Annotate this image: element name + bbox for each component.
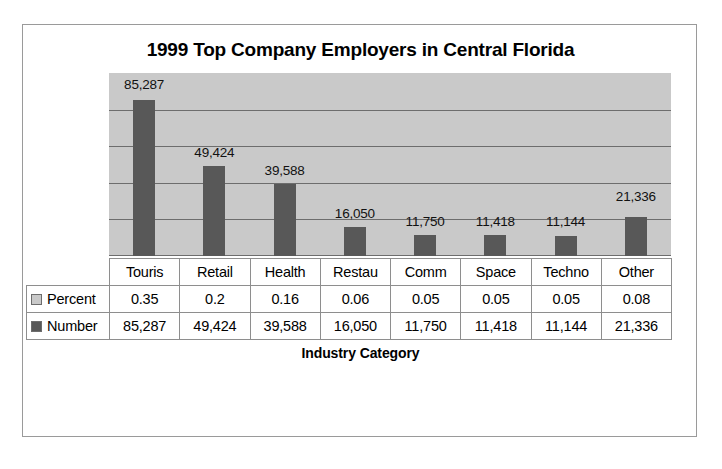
bar-number-3[interactable] [344,227,366,256]
table-header-cell-5: Space [461,259,531,286]
bar-value-label-7: 21,336 [616,189,656,204]
bar-number-2[interactable] [274,184,296,256]
bar-value-label-3: 16,050 [335,206,375,221]
data-table: Touris Retail Health Restau Comm Space T… [26,258,672,340]
table-cell-percent-0: 0.35 [110,286,180,313]
table-cell-number-0: 85,287 [110,313,180,340]
bar-value-label-0: 85,287 [124,77,164,92]
bar-number-7[interactable] [625,217,647,256]
bar-value-label-4: 11,750 [406,214,445,229]
table-header-cell-3: Restau [320,259,390,286]
table-header-row: Touris Retail Health Restau Comm Space T… [27,259,672,286]
table-cell-number-7: 21,336 [601,313,671,340]
chart-frame: 1999 Top Company Employers in Central Fl… [22,24,697,437]
bar-number-4[interactable] [414,235,436,257]
bar-group-1: 49,424 [179,73,249,256]
number-swatch-icon [31,321,42,332]
table-header-cell-4: Comm [391,259,461,286]
bar-number-1[interactable] [203,166,225,256]
table-row-percent: Percent 0.35 0.2 0.16 0.06 0.05 0.05 0.0… [27,286,672,313]
bar-value-label-6: 11,144 [546,214,585,229]
table-cell-percent-4: 0.05 [391,286,461,313]
table-cell-percent-2: 0.16 [250,286,320,313]
table-cell-number-2: 39,588 [250,313,320,340]
bar-number-0[interactable] [133,100,155,256]
table-header-cell-0: Touris [110,259,180,286]
table-cell-number-4: 11,750 [391,313,461,340]
table-cell-number-1: 49,424 [180,313,250,340]
percent-swatch-icon [31,294,42,305]
legend-label-percent: Percent [47,291,96,307]
table-corner-cell [27,259,110,286]
plot-area: 85,287 49,424 39,588 16,050 11,750 11,41… [109,73,671,256]
table-cell-number-6: 11,144 [531,313,601,340]
table-cell-percent-7: 0.08 [601,286,671,313]
table-header-cell-1: Retail [180,259,250,286]
table-cell-percent-6: 0.05 [531,286,601,313]
table-cell-percent-3: 0.06 [320,286,390,313]
bar-group-6: 11,144 [531,73,601,256]
table-header-cell-6: Techno [531,259,601,286]
legend-label-number: Number [47,318,97,334]
table-cell-number-3: 16,050 [320,313,390,340]
bar-group-4: 11,750 [390,73,460,256]
table-cell-number-5: 11,418 [461,313,531,340]
table-cell-percent-5: 0.05 [461,286,531,313]
bar-group-7: 21,336 [601,73,671,256]
bar-value-label-1: 49,424 [194,145,234,160]
bar-group-2: 39,588 [250,73,320,256]
bar-group-5: 11,418 [460,73,530,256]
bar-number-5[interactable] [484,235,506,256]
table-header-cell-7: Other [601,259,671,286]
bar-number-6[interactable] [555,236,577,256]
legend-item-percent: Percent [27,286,110,313]
table-cell-percent-1: 0.2 [180,286,250,313]
x-axis-title: Industry Category [23,345,698,361]
table-header-cell-2: Health [250,259,320,286]
table-row-number: Number 85,287 49,424 39,588 16,050 11,75… [27,313,672,340]
bar-value-label-2: 39,588 [265,163,305,178]
bar-value-label-5: 11,418 [476,214,515,229]
bar-group-3: 16,050 [320,73,390,256]
legend-item-number: Number [27,313,110,340]
bar-group-0: 85,287 [109,73,179,256]
chart-title: 1999 Top Company Employers in Central Fl… [23,39,698,61]
